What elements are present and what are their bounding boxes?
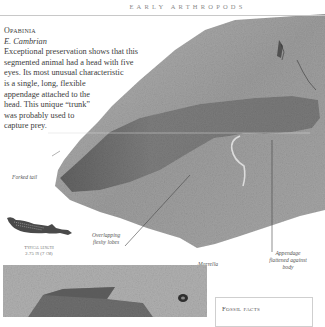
description-line: appendage attached to the bbox=[4, 90, 174, 101]
description-line: head. This unique “trunk” bbox=[4, 100, 174, 111]
description-line: was probably used to bbox=[4, 111, 174, 122]
label-line: body bbox=[262, 264, 314, 271]
fossil-facts-title: Fossil facts bbox=[222, 305, 260, 312]
caption-line: 2.75 in (7 cm) bbox=[2, 251, 76, 257]
description-line: segmented animal had a head with five bbox=[4, 58, 174, 69]
label-forked-tail: Forked tail bbox=[12, 174, 37, 181]
marrella-fossil-photo bbox=[3, 265, 207, 317]
species-name: Opabinia bbox=[4, 26, 174, 37]
description-line: is a single, long, flexible bbox=[4, 79, 174, 90]
label-line: flattened against bbox=[262, 257, 314, 264]
species-era: E. Cambrian bbox=[4, 37, 174, 48]
description-line: eyes. Its most unusual characteristic bbox=[4, 68, 174, 79]
typical-length-caption: Typical length 2.75 in (7 cm) bbox=[2, 245, 76, 256]
label-appendage: Appendage flattened against body bbox=[262, 250, 314, 271]
label-overlapping-lobes: Overlapping fleshy lobes bbox=[92, 232, 120, 246]
label-line: Appendage bbox=[262, 250, 314, 257]
label-line: fleshy lobes bbox=[92, 239, 120, 246]
page-header: EARLY ARTHROPODS bbox=[0, 3, 325, 10]
opabinia-illustration bbox=[4, 214, 74, 240]
label-line: Overlapping bbox=[92, 232, 120, 239]
fossil-facts-box: Fossil facts bbox=[215, 297, 313, 327]
description-line: capture prey. bbox=[4, 121, 174, 132]
description-line: Exceptional preservation shows that this bbox=[4, 47, 174, 58]
header-rule bbox=[0, 15, 325, 16]
intro-text: Opabinia E. Cambrian Exceptional preserv… bbox=[4, 26, 174, 132]
